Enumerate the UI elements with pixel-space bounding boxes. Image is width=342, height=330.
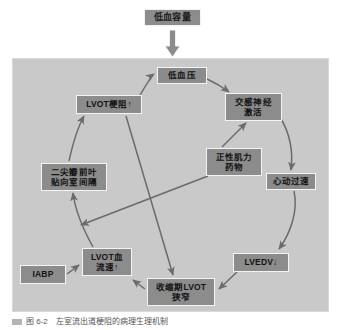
node-systolic-lvot-narrowing: 收缩期LVOT 狭窄 [147,278,215,306]
node-lvot-obstruction: LVOT梗阻↑ [76,95,142,114]
node-systolic-anterior-motion: 二尖瓣前叶 贴向室间隔 [41,163,107,191]
node-iabp: IABP [20,265,66,284]
caption-marker-icon [12,319,22,325]
node-inotropic-drugs: 正性肌力 药物 [206,148,262,176]
caption-text: 图 6-2 左室流出道梗阻的病理生理机制 [26,317,168,326]
node-hypotension: 低血压 [157,67,207,84]
node-hypovolemia: 低血容量 [144,9,201,26]
block-arrow-icon [165,30,180,58]
node-tachycardia: 心动过速 [266,173,316,190]
diagram-panel: 低血压 LVOT梗阻↑ 交感神经 激活 正性肌力 药物 心动过速 二尖瓣前叶 贴… [12,58,329,312]
node-lvedv: LVEDV↓ [233,253,289,272]
node-lvot-velocity: LVOT血 流速↑ [82,248,132,276]
figure-caption: 图 6-2 左室流出道梗阻的病理生理机制 [12,316,330,329]
node-sympathetic-activation: 交感神经 激活 [225,93,282,121]
figure-container: 低血容量 [0,0,342,330]
